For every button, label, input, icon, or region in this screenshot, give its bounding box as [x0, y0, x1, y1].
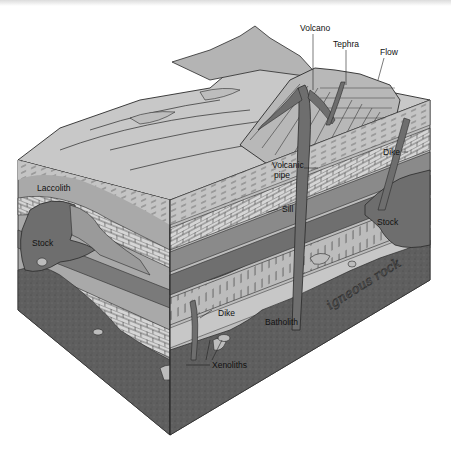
label-flow: Flow [380, 47, 399, 57]
left-face [18, 160, 182, 435]
label-volcano: Volcano [300, 23, 331, 33]
label-dike-lower: Dike [218, 308, 235, 318]
label-batholith: Batholith [265, 317, 298, 327]
label-stock-right: Stock [377, 217, 399, 227]
label-xenoliths: Xenoliths [212, 360, 247, 370]
label-volcanic-pipe-1: Volcanic [272, 160, 304, 170]
label-stock-left: Stock [32, 238, 54, 248]
label-tephra: Tephra [333, 39, 359, 49]
label-volcanic-pipe-2: pipe [274, 170, 290, 180]
label-dike-upper: Dike [383, 147, 400, 157]
label-laccolith: Laccolith [37, 183, 71, 193]
label-sill: Sill [282, 204, 293, 214]
geology-block-diagram: Volcano Tephra Flow Dike Volcanic pipe L… [0, 0, 451, 453]
